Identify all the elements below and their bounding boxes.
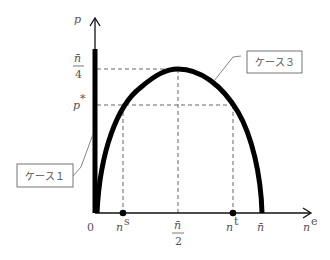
case3-curve — [97, 69, 262, 213]
svg-text:*: * — [80, 92, 86, 105]
origin-label: 0 — [87, 221, 94, 234]
callout-case1-label: ケース１ — [25, 171, 65, 182]
tick-label-nbar-over-4: n̄ 4 — [73, 52, 84, 81]
callout-case3-label: ケース３ — [255, 57, 295, 68]
tick-label-n-s: n s — [116, 215, 130, 234]
tick-label-p-star: p * — [73, 92, 86, 112]
tick-label-n-t: n t — [226, 215, 239, 234]
callout-case3: ケース３ — [214, 51, 302, 81]
diagram-canvas: p n̄ 4 p * 0 n s n̄ 2 n t n̄ n e ケース３ ケー… — [0, 0, 330, 260]
callout-case3-leader — [214, 56, 241, 81]
svg-text:n̄: n̄ — [174, 219, 181, 232]
y-axis-label: p — [74, 13, 81, 26]
callout-case1-leader — [73, 134, 93, 176]
tick-label-nbar-over-2: n̄ 2 — [172, 219, 184, 248]
svg-text:s: s — [124, 215, 130, 228]
svg-text:t: t — [234, 215, 239, 228]
svg-text:e: e — [311, 215, 318, 228]
tick-label-nbar: n̄ — [257, 221, 264, 234]
x-axis-label: n e — [303, 215, 318, 234]
svg-text:n̄: n̄ — [74, 52, 81, 65]
svg-text:2: 2 — [175, 235, 182, 248]
svg-text:p: p — [73, 99, 80, 112]
svg-text:n: n — [303, 221, 310, 234]
guide-lines — [97, 69, 233, 213]
callout-case1: ケース１ — [17, 134, 93, 187]
svg-text:4: 4 — [75, 68, 82, 81]
svg-text:n: n — [226, 221, 233, 234]
svg-text:n: n — [116, 221, 123, 234]
